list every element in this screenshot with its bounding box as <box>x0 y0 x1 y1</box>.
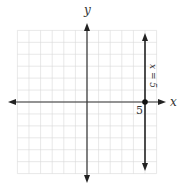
x-axis-right-arrow-icon <box>158 99 166 105</box>
point-5-0 <box>142 99 148 105</box>
tick-label-5: 5 <box>136 104 143 117</box>
line-label: x = 5 <box>148 64 158 88</box>
line-down-arrow-icon <box>142 163 148 171</box>
coordinate-plane: y x 5 x = 5 <box>0 0 184 189</box>
y-axis-down-arrow-icon <box>84 175 90 183</box>
y-axis-label: y <box>83 3 91 17</box>
x-axis-label: x <box>170 95 177 109</box>
y-axis <box>84 23 90 183</box>
line-x-equals-5 <box>142 33 148 171</box>
line-up-arrow-icon <box>142 33 148 41</box>
x-axis-left-arrow-icon <box>8 99 16 105</box>
y-axis-up-arrow-icon <box>84 23 90 31</box>
